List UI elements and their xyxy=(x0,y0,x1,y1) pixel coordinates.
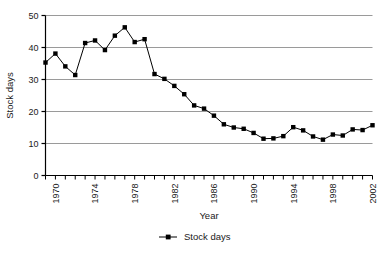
x-tick-label: 2002 xyxy=(368,184,378,204)
data-point-marker xyxy=(103,48,107,52)
data-point-marker xyxy=(162,77,166,81)
y-tick-label: 40 xyxy=(28,43,38,53)
data-point-marker xyxy=(212,113,216,117)
data-point-marker xyxy=(241,127,245,131)
y-axis-title: Stock days xyxy=(4,72,15,119)
data-point-marker xyxy=(251,131,255,135)
chart-canvas: 01020304050 1970197419781982198619901994… xyxy=(0,0,388,254)
x-tick-label: 1986 xyxy=(209,184,219,204)
legend-label: Stock days xyxy=(184,231,231,242)
series-polyline xyxy=(46,27,373,139)
x-axis-title-text: Year xyxy=(199,210,218,221)
y-tick-label: 50 xyxy=(28,11,38,21)
data-point-marker xyxy=(53,51,57,55)
data-point-marker xyxy=(321,137,325,141)
data-point-marker xyxy=(63,64,67,68)
x-tick-label: 1990 xyxy=(249,184,259,204)
data-point-marker xyxy=(331,132,335,136)
data-point-marker xyxy=(73,73,77,77)
gridlines xyxy=(46,16,373,144)
x-tick-label: 1982 xyxy=(170,184,180,204)
data-point-marker xyxy=(83,41,87,45)
x-axis-tick-labels: 197019741978198219861990199419982002 xyxy=(51,184,378,204)
data-point-marker xyxy=(93,38,97,42)
data-point-marker xyxy=(113,33,117,37)
legend-marker-sample xyxy=(166,235,171,240)
data-point-marker xyxy=(172,84,176,88)
data-point-marker xyxy=(43,60,47,64)
data-point-marker xyxy=(311,134,315,138)
data-point-marker xyxy=(271,136,275,140)
stock-days-line-chart: 01020304050 1970197419781982198619901994… xyxy=(0,0,388,254)
data-point-marker xyxy=(123,25,127,29)
data-point-marker xyxy=(152,72,156,76)
data-point-marker xyxy=(182,92,186,96)
data-point-marker xyxy=(232,125,236,129)
data-point-marker xyxy=(301,128,305,132)
x-tick-label: 1978 xyxy=(130,184,140,204)
data-point-marker xyxy=(132,40,136,44)
data-point-marker xyxy=(142,37,146,41)
y-tick-label: 20 xyxy=(28,107,38,117)
x-tick-label: 1970 xyxy=(51,184,61,204)
legend: Stock days xyxy=(159,231,231,242)
y-axis-tick-labels: 01020304050 xyxy=(28,11,38,181)
data-series-markers xyxy=(43,25,374,142)
y-tick-label: 0 xyxy=(33,171,38,181)
data-point-marker xyxy=(222,122,226,126)
x-axis-ticks xyxy=(46,176,373,180)
data-series-line xyxy=(46,27,373,139)
data-point-marker xyxy=(360,128,364,132)
data-point-marker xyxy=(350,127,354,131)
data-point-marker xyxy=(341,133,345,137)
y-tick-label: 30 xyxy=(28,75,38,85)
data-point-marker xyxy=(202,106,206,110)
x-tick-label: 1998 xyxy=(328,184,338,204)
x-tick-label: 1974 xyxy=(90,184,100,204)
data-point-marker xyxy=(192,103,196,107)
y-axis-title-text: Stock days xyxy=(4,72,15,119)
data-point-marker xyxy=(291,125,295,129)
data-point-marker xyxy=(370,123,374,127)
x-tick-label: 1994 xyxy=(289,184,299,204)
y-tick-label: 10 xyxy=(28,139,38,149)
data-point-marker xyxy=(281,134,285,138)
x-axis-title: Year xyxy=(199,210,218,221)
data-point-marker xyxy=(261,137,265,141)
